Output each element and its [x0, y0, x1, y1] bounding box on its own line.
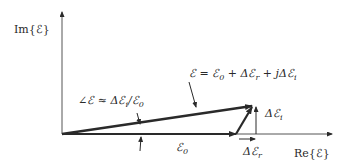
e-vector [62, 106, 252, 134]
angle-lower-pointer-arrow [140, 137, 141, 151]
equation-pointer-arrow [189, 82, 196, 107]
delta-e-vector [236, 107, 252, 134]
x-axis-label: Re{ℰ} [294, 148, 330, 159]
y-axis-label: Im{ℰ} [14, 24, 50, 35]
e0-label: ℰ0 [176, 142, 188, 156]
phasor-diagram [0, 0, 344, 167]
phasor-equation: ℰ = ℰ0 + Δℰr + jΔℰi [189, 68, 296, 82]
delta-ei-label: Δℰi [265, 108, 283, 122]
delta-er-label: Δℰr [243, 146, 262, 160]
angle-approximation-label: ∠ℰ ≈ Δℰi/ℰ0 [78, 95, 144, 109]
